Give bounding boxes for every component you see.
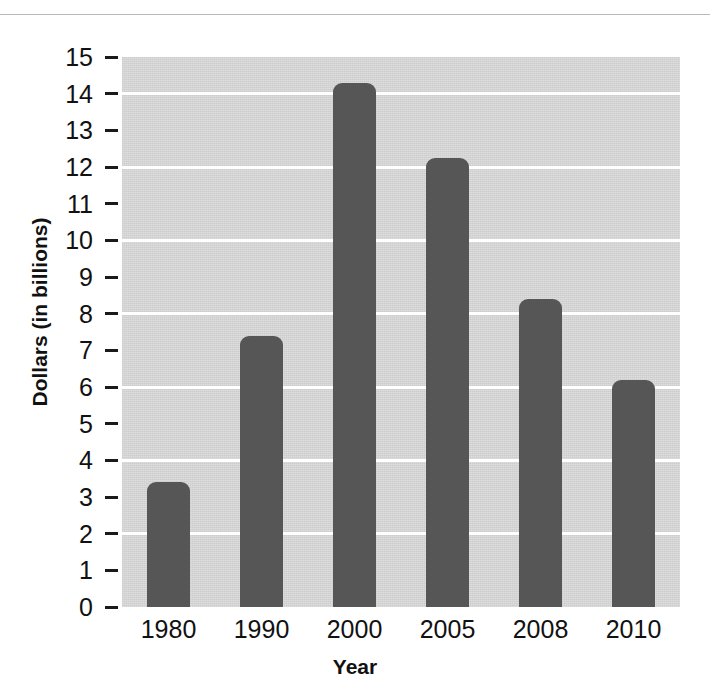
y-axis-tick [105,202,118,205]
y-axis-tick-label: 11 [47,192,93,217]
y-axis-tick-label: 13 [47,118,93,143]
bar [519,299,562,607]
y-axis-tick [105,386,118,389]
y-axis-tick-label: 3 [47,485,93,510]
y-axis-tick-label: 10 [47,228,93,253]
y-axis-tick-label: 5 [47,412,93,437]
x-axis-title: Year [0,655,710,679]
y-axis-tick [105,532,118,535]
bar [147,482,190,607]
gridline [122,92,680,95]
y-axis-tick [105,56,118,59]
gridline [122,239,680,242]
gridline [122,166,680,169]
y-axis-tick-label: 2 [47,522,93,547]
y-axis-tick-label: 4 [47,448,93,473]
y-axis-tick-label: 14 [47,82,93,107]
y-axis-tick [105,459,118,462]
bar-chart-figure: 1514131211109876543210 Dollars (in billi… [0,0,710,689]
y-axis-tick [105,166,118,169]
bar [612,380,655,607]
y-axis-tick [105,276,118,279]
y-axis-tick-label: 0 [47,595,93,620]
y-axis-tick [105,312,118,315]
y-axis-tick [105,92,118,95]
plot-background-texture [122,57,680,607]
bar [333,83,376,607]
y-axis-tick [105,422,118,425]
top-divider-rule [0,14,710,15]
gridline [122,532,680,535]
y-axis-tick [105,239,118,242]
y-axis-tick [105,129,118,132]
y-axis-tick [105,496,118,499]
y-axis-tick-label: 7 [47,338,93,363]
x-axis-tick-label: 2010 [579,617,689,642]
y-axis-tick-label: 9 [47,265,93,290]
gridline [122,312,680,315]
plot-area [122,57,680,607]
gridline [122,459,680,462]
bar [240,336,283,607]
y-axis-tick-label: 12 [47,155,93,180]
y-axis-tick-label: 1 [47,558,93,583]
y-axis-tick-label: 6 [47,375,93,400]
gridline [122,386,680,389]
y-axis-tick-label: 15 [47,45,93,70]
y-axis-title: Dollars (in billions) [28,162,52,462]
y-axis-tick [105,349,118,352]
y-axis-tick [105,606,118,609]
y-axis-tick [105,569,118,572]
bar [426,158,469,607]
y-axis-tick-label: 8 [47,302,93,327]
